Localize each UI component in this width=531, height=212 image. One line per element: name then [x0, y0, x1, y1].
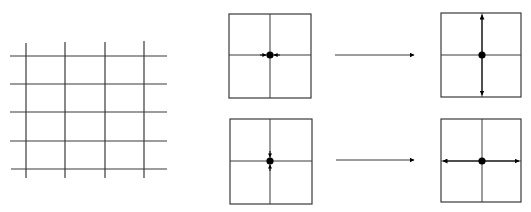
grid-lattice: [10, 41, 167, 178]
transition-arrows: [335, 55, 414, 160]
center-dot-icon: [478, 51, 485, 58]
center-dot-icon: [478, 157, 485, 164]
deformation-panels: [229, 13, 521, 204]
diagram-svg: [0, 0, 531, 212]
panel-top-left: [229, 14, 311, 98]
center-dot-icon: [266, 51, 273, 58]
center-dot-icon: [266, 157, 273, 164]
diagram-canvas: [0, 0, 531, 212]
panel-bottom-left: [230, 119, 312, 204]
panel-top-right: [441, 13, 521, 97]
panel-bottom-right: [441, 119, 521, 202]
